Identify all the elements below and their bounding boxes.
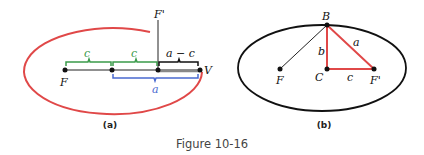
label-f-prime: F' bbox=[153, 8, 165, 21]
label-f-point: F bbox=[275, 74, 284, 87]
label-f: F bbox=[59, 76, 68, 89]
point-mid bbox=[110, 68, 115, 73]
brace-c1 bbox=[66, 59, 111, 66]
label-seg-a: a bbox=[353, 36, 360, 49]
brace-a bbox=[113, 74, 198, 81]
figure-caption: Figure 10-16 bbox=[176, 137, 248, 151]
point-f-prime bbox=[156, 68, 161, 73]
point-f-prime-b bbox=[372, 67, 377, 72]
panel-b: B C F F' a b c (b) bbox=[238, 10, 406, 130]
point-v bbox=[198, 68, 203, 73]
brace-a-minus-c bbox=[159, 59, 198, 66]
label-v: V bbox=[204, 64, 213, 77]
panel-a: c c a − c a F F' V (a) bbox=[24, 8, 213, 130]
point-f bbox=[63, 68, 68, 73]
label-b-point: B bbox=[321, 10, 330, 23]
sublabel-a: (a) bbox=[103, 120, 117, 130]
label-c2: c bbox=[131, 47, 137, 60]
point-f-b bbox=[278, 67, 283, 72]
sublabel-b: (b) bbox=[317, 120, 332, 130]
figure-10-16: c c a − c a F F' V (a) B C F F' a b c (b… bbox=[0, 0, 424, 155]
label-a-minus-c: a − c bbox=[166, 47, 195, 60]
label-c1: c bbox=[84, 47, 90, 60]
label-a: a bbox=[152, 83, 159, 96]
label-seg-b: b bbox=[318, 45, 325, 58]
label-c-point: C bbox=[315, 71, 324, 84]
point-b bbox=[325, 23, 330, 28]
brace-c2 bbox=[113, 59, 157, 66]
label-f-prime-point: F' bbox=[369, 74, 381, 87]
point-c bbox=[325, 67, 330, 72]
label-seg-c: c bbox=[347, 71, 353, 84]
black-ellipse bbox=[238, 25, 406, 111]
